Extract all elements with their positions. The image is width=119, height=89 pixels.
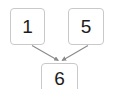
diagram-canvas: 1 5 6 [0,0,119,89]
node-one-label: 1 [22,17,33,36]
edge-one-to-six [32,46,58,61]
node-five[interactable]: 5 [68,8,104,45]
node-six-label: 6 [54,69,65,88]
node-one[interactable]: 1 [10,8,45,45]
edge-five-to-six [62,46,88,61]
node-six[interactable]: 6 [41,63,78,89]
node-five-label: 5 [81,17,92,36]
